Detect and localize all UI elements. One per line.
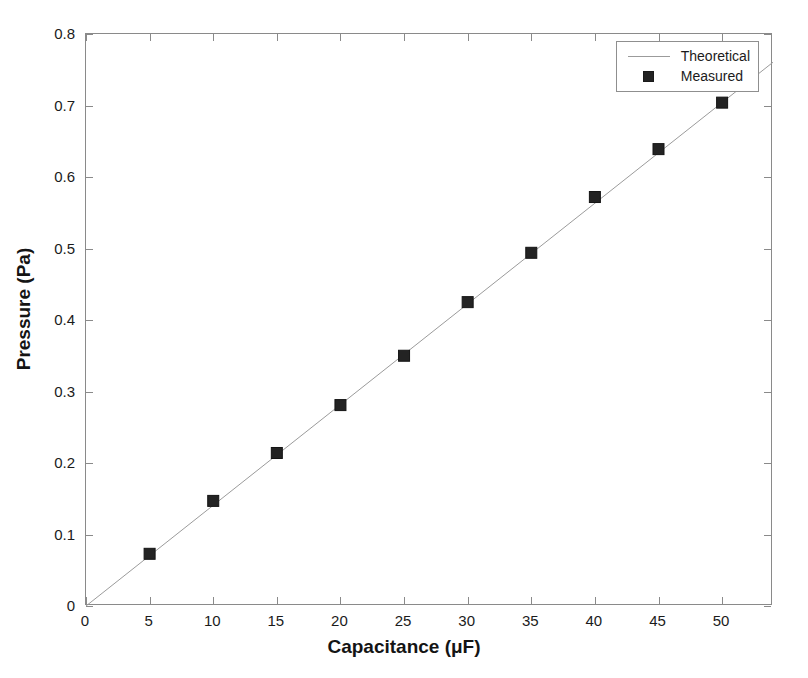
- x-axis-title: Capacitance (μF): [0, 636, 808, 658]
- x-tick-mark: [404, 597, 405, 604]
- y-tick-mark: [86, 392, 93, 393]
- x-tick-mark: [531, 597, 532, 604]
- x-tick-mark: [213, 34, 214, 41]
- x-tick-mark: [277, 597, 278, 604]
- y-tick-mark: [86, 106, 93, 107]
- y-tick-label: 0.6: [0, 168, 75, 185]
- y-axis-title: Pressure (Pa): [13, 199, 35, 419]
- x-tick-mark: [404, 34, 405, 41]
- y-tick-mark: [86, 320, 93, 321]
- y-tick-mark: [86, 177, 93, 178]
- y-tick-mark: [86, 34, 93, 35]
- x-tick-mark: [595, 597, 596, 604]
- x-tick-label: 50: [713, 612, 730, 629]
- y-tick-label: 0.1: [0, 525, 75, 542]
- x-tick-label: 10: [204, 612, 221, 629]
- x-tick-mark: [277, 34, 278, 41]
- y-tick-mark: [764, 392, 771, 393]
- x-tick-label: 35: [522, 612, 539, 629]
- legend-square-marker-swatch: [625, 71, 673, 82]
- y-tick-mark: [764, 606, 771, 607]
- x-tick-mark: [531, 34, 532, 41]
- y-tick-mark: [764, 463, 771, 464]
- x-tick-label: 40: [586, 612, 603, 629]
- x-tick-label: 25: [395, 612, 412, 629]
- x-tick-label: 0: [81, 612, 89, 629]
- x-tick-mark: [340, 34, 341, 41]
- y-tick-mark: [764, 535, 771, 536]
- x-tick-label: 45: [649, 612, 666, 629]
- x-tick-mark: [86, 597, 87, 604]
- x-tick-mark: [468, 34, 469, 41]
- y-tick-label: 0.5: [0, 239, 75, 256]
- data-point-marker: [717, 97, 728, 108]
- data-point-marker: [589, 192, 600, 203]
- data-point-marker: [208, 495, 219, 506]
- x-tick-label: 20: [331, 612, 348, 629]
- y-tick-label: 0.8: [0, 25, 75, 42]
- x-tick-mark: [659, 597, 660, 604]
- x-tick-label: 15: [267, 612, 284, 629]
- y-tick-mark: [764, 106, 771, 107]
- legend-label-theoretical: Theoretical: [673, 48, 750, 64]
- y-tick-mark: [764, 249, 771, 250]
- data-point-marker: [144, 548, 155, 559]
- plot-area: Theoretical Measured: [85, 33, 772, 605]
- data-point-marker: [653, 144, 664, 155]
- x-tick-mark: [213, 597, 214, 604]
- data-point-marker: [271, 447, 282, 458]
- measured-markers: [144, 97, 728, 559]
- y-tick-mark: [86, 463, 93, 464]
- x-tick-mark: [468, 597, 469, 604]
- y-tick-label: 0.4: [0, 311, 75, 328]
- x-tick-mark: [722, 34, 723, 41]
- data-point-marker: [335, 400, 346, 411]
- y-tick-label: 0.2: [0, 454, 75, 471]
- y-tick-mark: [86, 535, 93, 536]
- y-tick-mark: [86, 249, 93, 250]
- y-tick-label: 0.7: [0, 96, 75, 113]
- y-tick-mark: [764, 177, 771, 178]
- x-tick-mark: [722, 597, 723, 604]
- y-tick-mark: [764, 320, 771, 321]
- x-tick-mark: [150, 597, 151, 604]
- data-point-marker: [526, 247, 537, 258]
- y-tick-mark: [86, 606, 93, 607]
- legend-line-swatch: [625, 56, 673, 57]
- data-point-marker: [462, 297, 473, 308]
- theoretical-line: [86, 62, 773, 606]
- y-tick-mark: [764, 34, 771, 35]
- x-tick-mark: [86, 34, 87, 41]
- x-tick-mark: [595, 34, 596, 41]
- x-tick-label: 5: [144, 612, 152, 629]
- x-tick-mark: [340, 597, 341, 604]
- x-tick-label: 30: [458, 612, 475, 629]
- x-tick-mark: [659, 34, 660, 41]
- figure-canvas: Theoretical Measured 0510152025303540455…: [0, 0, 808, 678]
- legend-row-theoretical: Theoretical: [625, 46, 750, 66]
- y-tick-label: 0.3: [0, 382, 75, 399]
- legend-row-measured: Measured: [625, 66, 750, 86]
- data-point-marker: [399, 350, 410, 361]
- legend-label-measured: Measured: [673, 68, 743, 84]
- data-layer: [86, 34, 773, 606]
- x-tick-mark: [150, 34, 151, 41]
- legend: Theoretical Measured: [616, 41, 759, 92]
- y-tick-label: 0: [0, 597, 75, 614]
